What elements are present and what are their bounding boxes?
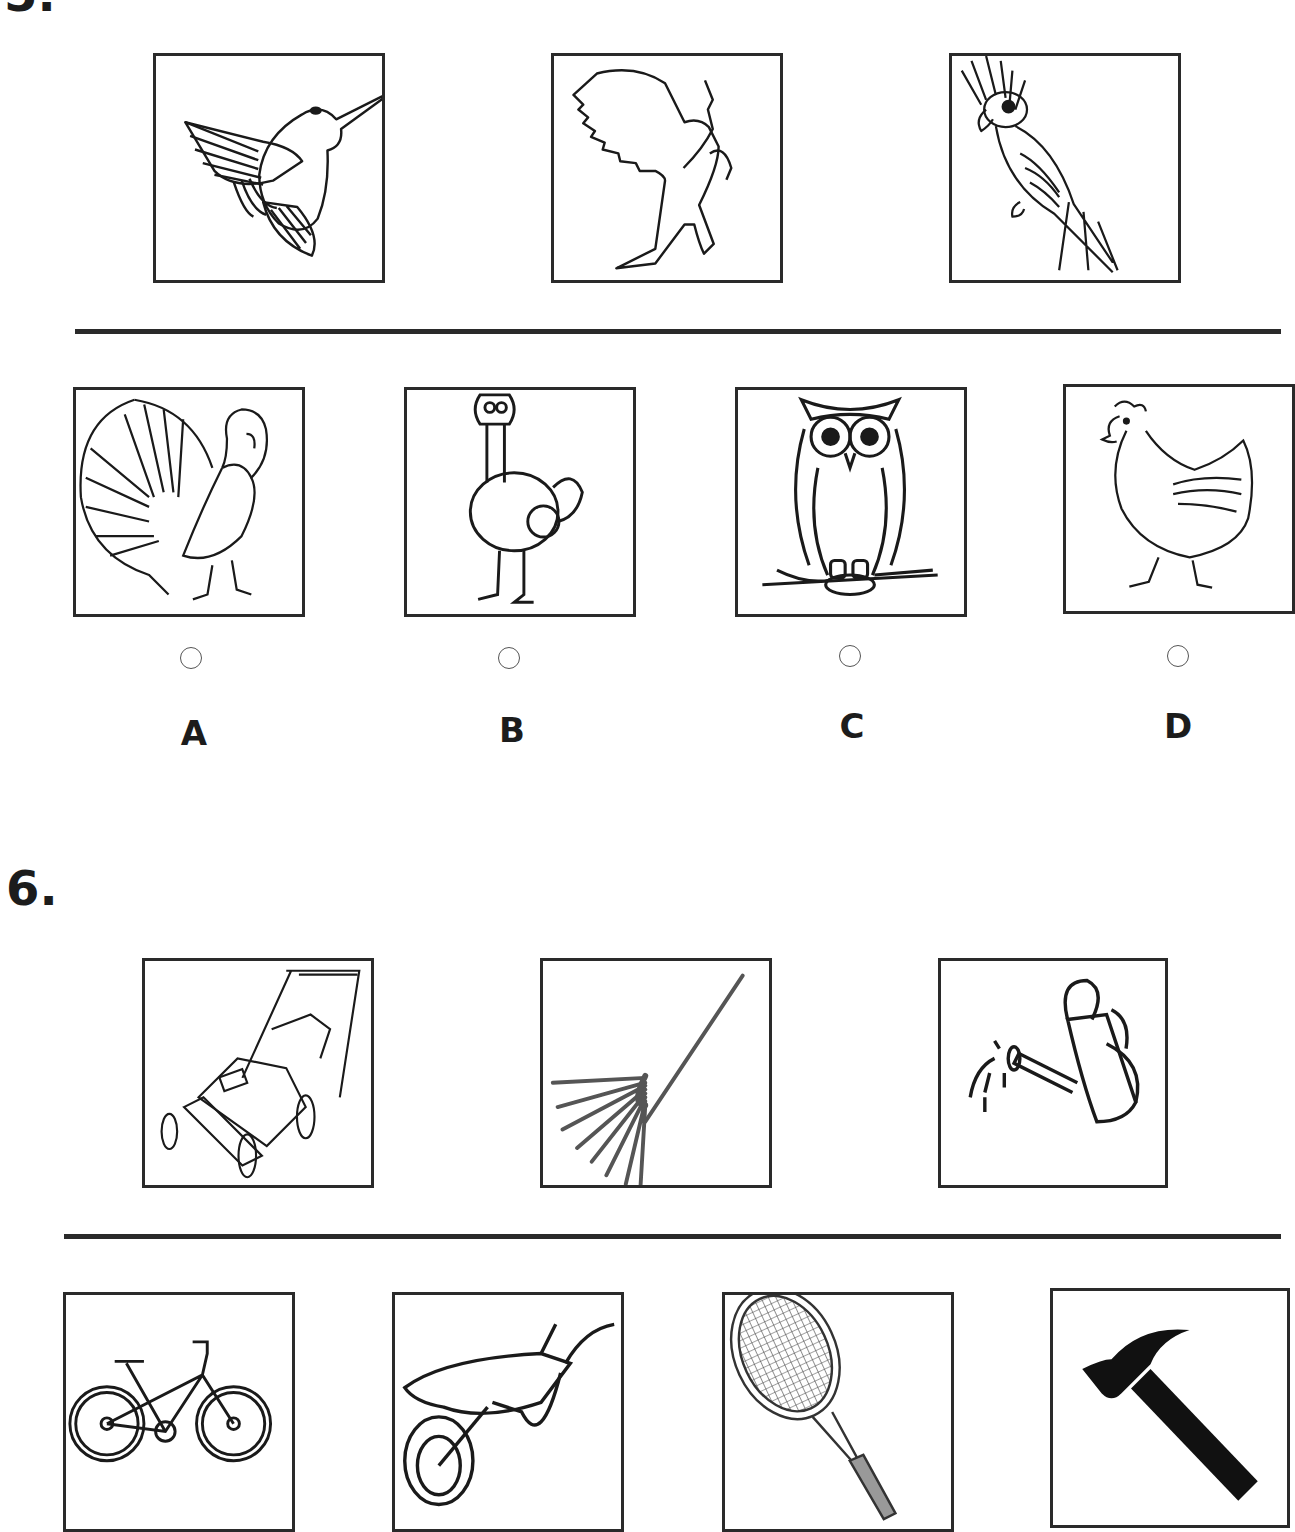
option-c-radio[interactable] (839, 645, 861, 667)
option-b-radio[interactable] (498, 647, 520, 669)
section-divider-6 (64, 1234, 1281, 1239)
option-d-image-hen[interactable] (1063, 384, 1295, 614)
option-image-wheelbarrow[interactable] (392, 1292, 624, 1532)
option-c-image-owl[interactable] (735, 387, 967, 617)
turkey-icon (76, 390, 302, 614)
option-b-image-ostrich[interactable] (404, 387, 636, 617)
prompt-image-cockatoo (949, 53, 1181, 283)
question-number-5: 5. (4, 0, 56, 18)
wheelbarrow-icon (395, 1295, 621, 1529)
question-number-6: 6. (6, 864, 58, 912)
option-b-label: B (492, 710, 532, 750)
option-a-label: A (174, 713, 214, 753)
bicycle-icon (66, 1295, 292, 1529)
prompt-image-rake (540, 958, 772, 1188)
option-image-tennis-racket[interactable] (722, 1292, 954, 1532)
rake-icon (543, 961, 769, 1185)
option-a-radio[interactable] (180, 647, 202, 669)
hammer-icon (1053, 1291, 1287, 1525)
option-image-bicycle[interactable] (63, 1292, 295, 1532)
option-d-radio[interactable] (1167, 645, 1189, 667)
prompt-image-hummingbird (153, 53, 385, 283)
option-c-label: C (832, 706, 872, 746)
section-divider-5 (75, 329, 1281, 334)
eagle-icon (554, 56, 780, 280)
prompt-image-watering-can (938, 958, 1168, 1188)
tennis-racket-icon (725, 1295, 951, 1529)
hen-icon (1066, 387, 1292, 611)
hummingbird-icon (156, 56, 382, 280)
prompt-image-eagle (551, 53, 783, 283)
cockatoo-icon (952, 56, 1178, 280)
option-image-hammer[interactable] (1050, 1288, 1290, 1528)
owl-icon (738, 390, 964, 614)
lawn-mower-icon (145, 961, 371, 1185)
option-a-image-turkey[interactable] (73, 387, 305, 617)
ostrich-icon (407, 390, 633, 614)
watering-can-icon (941, 961, 1165, 1185)
option-d-label: D (1158, 706, 1198, 746)
prompt-image-lawn-mower (142, 958, 374, 1188)
